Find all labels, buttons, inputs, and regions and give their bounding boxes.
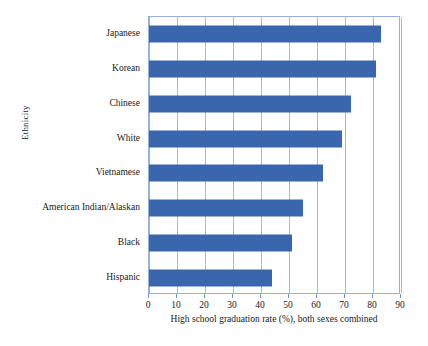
x-tick-label: 80: [367, 299, 377, 311]
x-tick-mark: [204, 294, 205, 298]
y-tick-label: White: [117, 133, 140, 143]
x-tick-mark: [176, 294, 177, 298]
x-tick-label: 0: [146, 299, 151, 311]
gridline-90: [401, 17, 402, 293]
x-tick-label: 30: [227, 299, 237, 311]
x-tick-mark: [288, 294, 289, 298]
y-tick-label: American Indian/Alaskan: [42, 202, 140, 212]
x-tick-mark: [344, 294, 345, 298]
bar: [149, 130, 342, 147]
x-axis-title: High school graduation rate (%), both se…: [148, 314, 400, 324]
bar: [149, 165, 323, 182]
y-tick-label: Vietnamese: [96, 167, 140, 177]
y-axis-title: Ethnicity: [20, 126, 30, 140]
x-tick-label: 10: [171, 299, 181, 311]
x-axis-tick-labels: 0102030405060708090: [148, 299, 400, 312]
x-tick-mark: [232, 294, 233, 298]
x-tick-mark: [400, 294, 401, 298]
y-tick-label: Black: [118, 237, 140, 247]
x-tick-label: 40: [255, 299, 265, 311]
x-tick-mark: [372, 294, 373, 298]
y-tick-label: Japanese: [106, 28, 140, 38]
bar: [149, 200, 303, 217]
y-tick-label: Chinese: [109, 98, 140, 108]
x-tick-label: 60: [311, 299, 321, 311]
x-tick-mark: [316, 294, 317, 298]
x-tick-label: 90: [395, 299, 405, 311]
bar: [149, 26, 381, 43]
y-tick-label: Korean: [112, 63, 140, 73]
x-tick-label: 20: [199, 299, 209, 311]
x-tick-mark: [260, 294, 261, 298]
y-tick-label: Hispanic: [106, 272, 140, 282]
plot-area: [148, 16, 400, 294]
bar: [149, 269, 272, 286]
x-tick-mark: [148, 294, 149, 298]
x-tick-label: 70: [339, 299, 349, 311]
x-tick-label: 50: [283, 299, 293, 311]
bars-layer: [149, 17, 399, 293]
bar: [149, 61, 376, 78]
bar-chart-figure: Ethnicity JapaneseKoreanChineseWhiteViet…: [0, 0, 428, 346]
bar: [149, 95, 351, 112]
bar: [149, 234, 292, 251]
y-axis-tick-labels: JapaneseKoreanChineseWhiteVietnameseAmer…: [36, 16, 144, 294]
